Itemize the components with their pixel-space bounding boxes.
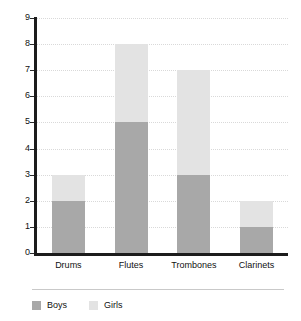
x-axis-line: [34, 253, 288, 256]
legend-label: Girls: [104, 300, 123, 310]
bar-stack[interactable]: [52, 175, 85, 253]
plot-area: 0123456789 DrumsFlutesTrombonesClarinets: [0, 0, 301, 262]
bar-stack[interactable]: [240, 201, 273, 253]
bar-series-layer: [0, 0, 301, 262]
bar-stack[interactable]: [177, 70, 210, 253]
legend-swatch-icon: [89, 301, 98, 310]
y-axis-line: [34, 17, 37, 255]
bar-segment-girls[interactable]: [115, 44, 148, 122]
bar-segment-boys[interactable]: [177, 175, 210, 253]
legend-swatch-icon: [32, 301, 41, 310]
x-axis-tick-label: Clarinets: [225, 259, 288, 271]
bar-segment-girls[interactable]: [52, 175, 85, 201]
bar-segment-boys[interactable]: [240, 227, 273, 253]
x-axis-tick-label: Drums: [37, 259, 100, 271]
stacked-bar-chart: 0123456789 DrumsFlutesTrombonesClarinets…: [0, 0, 301, 321]
x-axis-tick-label: Trombones: [163, 259, 226, 271]
bar-segment-girls[interactable]: [177, 70, 210, 174]
x-axis-tick-label: Flutes: [100, 259, 163, 271]
bar-segment-boys[interactable]: [115, 122, 148, 253]
x-axis-labels: DrumsFlutesTrombonesClarinets: [0, 259, 301, 277]
bar-stack[interactable]: [115, 44, 148, 253]
legend-label: Boys: [47, 300, 67, 310]
bar-segment-boys[interactable]: [52, 201, 85, 253]
legend-item[interactable]: Girls: [89, 300, 123, 310]
chart-legend: BoysGirls: [32, 298, 123, 312]
legend-separator: [32, 289, 284, 290]
legend-item[interactable]: Boys: [32, 300, 67, 310]
bar-segment-girls[interactable]: [240, 201, 273, 227]
